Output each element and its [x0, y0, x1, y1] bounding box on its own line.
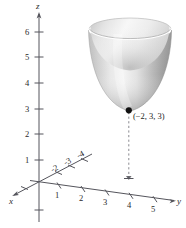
- z-tick-label-1: 1: [25, 155, 29, 165]
- y-axis: y 1 2 3 4 5: [30, 181, 181, 215]
- z-tick-label-3: 3: [25, 104, 29, 114]
- y-tick-2: [81, 186, 85, 192]
- vertex-projection: [124, 112, 134, 180]
- y-tick-label-5: 5: [151, 204, 155, 214]
- coordinate-system-svg: z 6 5 4 3 2 1 y 1 2 3: [0, 0, 186, 228]
- x-axis-label: x: [8, 196, 13, 206]
- z-tick-label-6: 6: [25, 27, 29, 37]
- y-tick-3: [105, 190, 109, 196]
- y-tick-4: [129, 193, 133, 199]
- z-tick-label-5: 5: [25, 52, 29, 62]
- y-tick-5: [153, 196, 157, 202]
- x-tick-label-neg4: -4: [75, 148, 87, 160]
- y-axis-label: y: [176, 196, 181, 206]
- vertex-point-group: (−2, 3, 3): [126, 107, 165, 121]
- y-axis-line: [30, 181, 174, 201]
- y-axis-arrowhead: [169, 199, 176, 203]
- vertex-point-label: (−2, 3, 3): [133, 111, 165, 121]
- z-axis-label: z: [35, 1, 40, 11]
- y-tick-label-1: 1: [55, 190, 59, 200]
- y-tick-label-3: 3: [103, 197, 107, 207]
- x-axis-arrowhead: [12, 191, 19, 196]
- figure-canvas: z 6 5 4 3 2 1 y 1 2 3: [0, 0, 186, 228]
- vertex-point-dot: [126, 107, 132, 113]
- paraboloid-surface: [89, 17, 172, 111]
- y-tick-label-2: 2: [79, 193, 83, 203]
- z-tick-label-4: 4: [25, 78, 30, 88]
- z-axis: z 6 5 4 3 2 1: [25, 1, 44, 222]
- y-tick-1: [57, 183, 61, 189]
- y-tick-label-4: 4: [127, 200, 132, 210]
- z-tick-label-2: 2: [25, 129, 29, 139]
